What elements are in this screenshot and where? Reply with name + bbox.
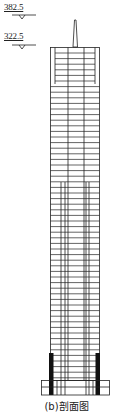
- base-column-right: [96, 353, 101, 395]
- building-section-svg: [0, 0, 133, 418]
- figure-caption: (b)剖面图: [0, 398, 133, 413]
- tower-outline: [51, 48, 100, 381]
- base-column-left: [49, 353, 54, 395]
- level-marker-top-icon: [12, 15, 36, 19]
- spire: [73, 20, 78, 47]
- level-marker-roof-icon: [12, 45, 36, 49]
- floor-lines: [51, 53, 100, 378]
